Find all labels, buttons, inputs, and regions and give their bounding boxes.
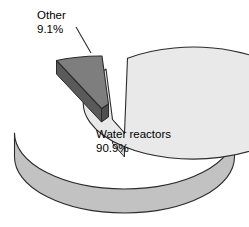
water-reactors-slice-label: Water reactors 90.9% [96,128,171,155]
water-reactors-slice-name: Water reactors [96,128,171,142]
water-reactors-slice-percent: 90.9% [96,142,171,156]
pie-chart-figure: Other 9.1% Water reactors 90.9% [0,0,249,227]
other-slice-label: Other 9.1% [37,9,66,36]
other-slice-percent: 9.1% [37,23,66,37]
slice-other [57,56,109,122]
other-leader-line [76,27,91,53]
other-slice-name: Other [37,9,66,23]
